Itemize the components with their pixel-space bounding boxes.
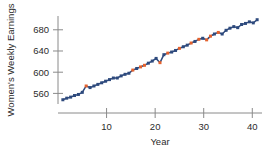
x-tick-label: 10: [101, 121, 112, 132]
x-tick-label: 30: [198, 121, 209, 132]
data-point: [236, 26, 239, 29]
data-point: [77, 93, 80, 96]
data-point: [225, 29, 228, 32]
data-point: [104, 80, 107, 83]
data-point: [135, 67, 138, 70]
earnings-line: [63, 20, 257, 100]
data-point: [244, 22, 247, 25]
data-point: [213, 33, 216, 36]
data-point: [174, 49, 177, 52]
data-point: [155, 57, 158, 60]
data-point: [92, 84, 95, 87]
y-tick-labels: 560600640680: [33, 24, 49, 99]
data-point: [201, 37, 204, 40]
x-tick-labels: 10203040: [101, 121, 257, 132]
data-point: [256, 18, 259, 21]
data-point: [186, 44, 189, 47]
x-axis-title: Year: [150, 136, 169, 147]
data-point: [96, 83, 99, 86]
data-point: [112, 77, 115, 80]
data-point-highlight: [209, 35, 212, 38]
data-point-highlight: [159, 61, 162, 64]
data-point: [170, 51, 173, 54]
data-point: [116, 77, 119, 80]
data-point: [147, 62, 150, 65]
data-point: [248, 20, 251, 23]
data-point: [120, 74, 123, 77]
data-point: [69, 96, 72, 99]
line-chart: 560600640680 10203040 Year Women's Weekl…: [0, 0, 271, 161]
data-point-highlight: [205, 38, 208, 41]
data-point: [65, 97, 68, 100]
data-point: [89, 86, 92, 89]
data-point: [240, 23, 243, 26]
data-point-highlight: [139, 65, 142, 68]
y-tick-label: 680: [33, 24, 49, 35]
data-point: [228, 27, 231, 30]
data-point: [151, 60, 154, 63]
data-point: [61, 98, 64, 101]
y-axis-title: Women's Weekly Earnings: [5, 3, 16, 116]
x-tick-label: 40: [247, 121, 258, 132]
y-axis: 560600640680: [33, 16, 63, 104]
data-point-highlight: [217, 31, 220, 34]
data-point-highlight: [166, 52, 169, 55]
data-point-highlight: [131, 69, 134, 72]
x-axis: 10203040: [58, 108, 262, 132]
x-tick-label: 20: [150, 121, 161, 132]
data-point-highlight: [85, 84, 88, 87]
data-point: [252, 21, 255, 24]
data-point-highlight: [190, 42, 193, 45]
y-tick-label: 640: [33, 45, 49, 56]
data-point: [73, 94, 76, 97]
data-point: [193, 40, 196, 43]
data-point: [108, 78, 111, 81]
data-point: [100, 81, 103, 84]
data-point: [182, 45, 185, 48]
chart-figure: 560600640680 10203040 Year Women's Weekl…: [0, 0, 271, 161]
earnings-markers: [61, 18, 258, 101]
data-point: [162, 53, 165, 56]
data-point: [124, 73, 127, 76]
data-series: [61, 18, 258, 101]
data-point: [221, 33, 224, 36]
y-tick-label: 560: [33, 88, 49, 99]
data-point: [127, 72, 130, 75]
data-point-highlight: [143, 64, 146, 67]
data-point: [81, 91, 84, 94]
data-point-highlight: [197, 38, 200, 41]
data-point: [232, 25, 235, 28]
data-point-highlight: [178, 47, 181, 50]
y-tick-label: 600: [33, 67, 49, 78]
